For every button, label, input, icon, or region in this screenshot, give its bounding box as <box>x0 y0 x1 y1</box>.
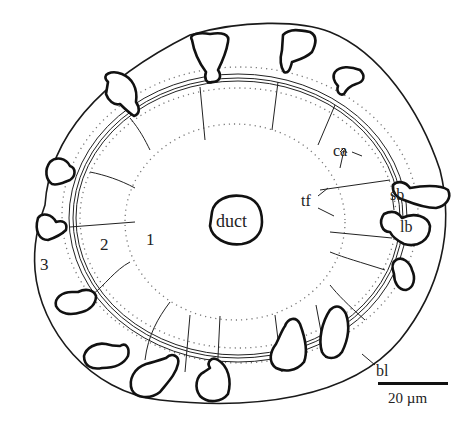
label-ca: ca <box>333 142 347 159</box>
gland-cross-section-diagram: duct 1 2 3 ca tf sb lb bl 20 µm <box>0 0 471 425</box>
label-zone-3: 3 <box>40 255 49 274</box>
label-bl: bl <box>376 362 389 379</box>
scale-bar <box>378 382 448 385</box>
label-tf: tf <box>301 192 311 209</box>
label-zone-2: 2 <box>100 235 109 254</box>
label-lb: lb <box>400 218 412 235</box>
label-duct: duct <box>216 211 247 231</box>
label-zone-1: 1 <box>146 230 155 249</box>
label-sb: sb <box>390 186 404 203</box>
scale-bar-label: 20 µm <box>388 390 427 406</box>
